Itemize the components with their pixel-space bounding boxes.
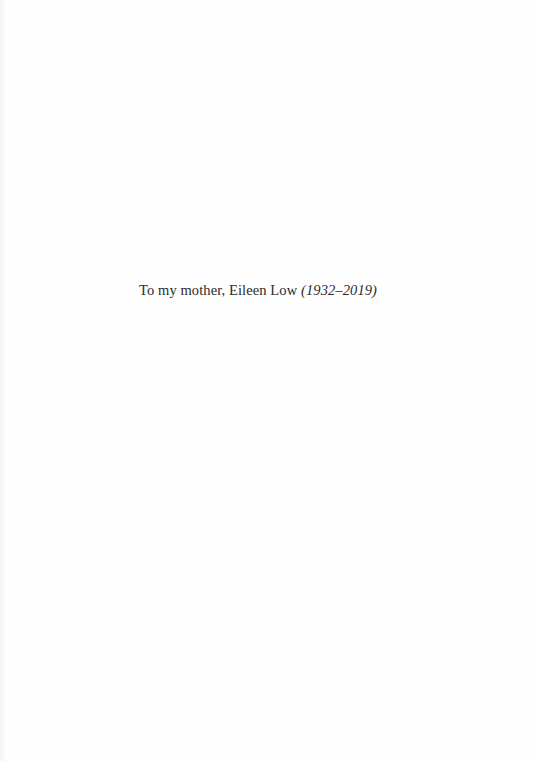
page-gutter-shadow: [0, 0, 6, 761]
book-page: To my mother, Eileen Low (1932–2019): [0, 0, 536, 761]
dedication-text: To my mother, Eileen Low: [139, 282, 297, 298]
dedication-line: To my mother, Eileen Low (1932–2019): [139, 282, 377, 299]
dedication-dates: (1932–2019): [301, 282, 377, 298]
